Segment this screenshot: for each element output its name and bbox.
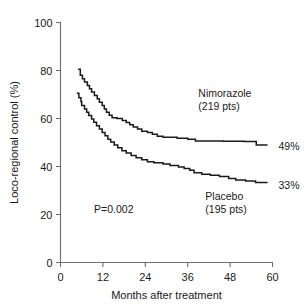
axes	[61, 22, 274, 263]
end-label-placebo: 33%	[279, 179, 300, 191]
x-tick-label-60: 60	[266, 271, 278, 283]
annotation-pvalue: P=0.002	[94, 203, 134, 215]
y-tick-label-0: 0	[46, 257, 52, 269]
y-tick-label-60: 60	[40, 113, 52, 125]
x-axis-title: Months after treatment	[111, 289, 222, 301]
y-tick-label-80: 80	[40, 65, 52, 77]
x-tick-label-0: 0	[57, 271, 63, 283]
y-axis-title: Loco-regional control (%)	[8, 81, 20, 204]
x-tick-label-12: 12	[97, 271, 109, 283]
x-tick-label-48: 48	[224, 271, 236, 283]
x-tick-label-36: 36	[182, 271, 194, 283]
tick-marks	[56, 23, 273, 268]
annotation-nimorazole-label-line1: Nimorazole	[198, 87, 251, 99]
x-tick-label-24: 24	[139, 271, 151, 283]
y-tick-label-40: 40	[40, 161, 52, 173]
y-tick-label-100: 100	[34, 17, 52, 29]
tick-labels: 02040608010001224364860	[34, 17, 278, 283]
chart-canvas: 02040608010001224364860 P=0.002Nimorazol…	[0, 0, 305, 304]
y-tick-label-20: 20	[40, 209, 52, 221]
kaplan-meier-figure: 02040608010001224364860 P=0.002Nimorazol…	[0, 0, 305, 304]
end-label-nimorazole: 49%	[279, 140, 300, 152]
annotation-placebo-label-line2: (195 pts)	[205, 203, 246, 215]
annotation-nimorazole-label-line2: (219 pts)	[198, 100, 239, 112]
annotation-placebo-label-line1: Placebo	[205, 190, 243, 202]
